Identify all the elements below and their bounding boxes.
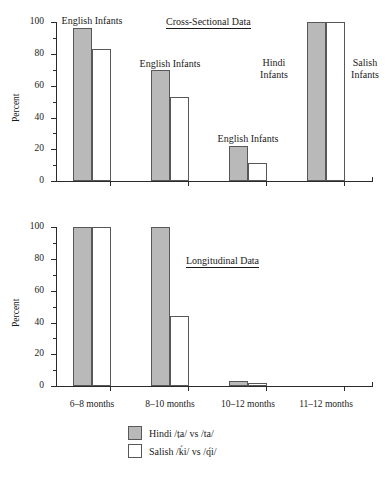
y-tick-80-long (51, 259, 56, 260)
annotation-hindi-infants-line2: Infants (247, 69, 301, 81)
legend-label-hindi: Hindi /ṭa/ vs /ta/ (149, 428, 214, 439)
annotation-english-infants-2: English Infants (205, 133, 291, 145)
y-label-100-long: 100 (14, 222, 44, 232)
annotation-salish-infants-line1: Salish (341, 57, 389, 69)
x-tick-cross-2 (188, 181, 189, 186)
panel-cross-sectional: 100 80 60 40 20 0 Percent Cross-Sectiona… (0, 0, 389, 200)
bar-salish-cross-2 (248, 163, 267, 181)
bar-salish-cross-1 (170, 97, 189, 181)
y-minor-tick-10-cross (53, 165, 56, 166)
legend-swatch-salish-icon (128, 444, 142, 458)
x-axis-line-long (56, 386, 373, 387)
y-minor-tick-30-long (53, 338, 56, 339)
y-tick-60-cross (51, 86, 56, 87)
y-tick-60-long (51, 291, 56, 292)
x-axis-line-cross (56, 181, 373, 182)
bar-salish-cross-0 (92, 49, 111, 181)
y-tick-40-long (51, 323, 56, 324)
bar-hindi-cross-1 (151, 70, 170, 181)
y-minor-tick-10-long (53, 370, 56, 371)
y-minor-tick-50-cross (53, 102, 56, 103)
bar-hindi-cross-3 (307, 22, 326, 181)
y-tick-0-cross (51, 181, 56, 182)
y-axis-title-cross: Percent (11, 94, 21, 123)
legend: Hindi /ṭa/ vs /ta/ Salish /ḱi/ vs /q́i/ (128, 424, 217, 460)
x-tick-long-3 (266, 386, 267, 391)
panel-title-cross-text: Cross-Sectional Data (166, 16, 251, 29)
panel-title-cross-sectional: Cross-Sectional Data (166, 16, 251, 27)
legend-swatch-hindi-icon (128, 426, 142, 440)
x-tick-long-1 (110, 386, 111, 391)
annotation-salish-infants-line2: Infants (341, 69, 389, 81)
x-category-label-3: 11–12 months (284, 399, 368, 409)
y-tick-0-long (51, 386, 56, 387)
bar-salish-long-2 (248, 383, 267, 386)
y-axis-title-long: Percent (11, 299, 21, 328)
legend-label-salish: Salish /ḱi/ vs /q́i/ (149, 446, 217, 457)
bar-hindi-cross-2 (229, 146, 248, 181)
y-axis-line-long (56, 227, 57, 386)
y-label-60-long: 60 (14, 286, 44, 296)
bar-salish-long-1 (170, 316, 189, 386)
bar-hindi-long-0 (73, 227, 92, 386)
y-label-80-cross: 80 (14, 49, 44, 59)
y-label-60-cross: 60 (14, 81, 44, 91)
annotation-english-infants-0: English Infants (49, 15, 135, 27)
panel-longitudinal: 100 80 60 40 20 0 Percent Longitudinal D… (0, 205, 389, 400)
x-tick-cross-1 (110, 181, 111, 186)
y-minor-tick-90-long (53, 243, 56, 244)
x-tick-cross-3 (266, 181, 267, 186)
bar-hindi-long-1 (151, 227, 170, 386)
legend-item-hindi: Hindi /ṭa/ vs /ta/ (128, 424, 217, 442)
bar-salish-long-0 (92, 227, 111, 386)
y-tick-20-cross (51, 149, 56, 150)
y-tick-100-long (51, 227, 56, 228)
x-tick-long-4 (344, 386, 345, 391)
y-axis-line-cross (56, 22, 57, 181)
legend-item-salish: Salish /ḱi/ vs /q́i/ (128, 442, 217, 460)
x-tick-cross-4 (344, 181, 345, 186)
bar-hindi-cross-0 (73, 28, 92, 181)
y-label-100-cross: 100 (14, 17, 44, 27)
x-tick-long-2 (188, 386, 189, 391)
bar-salish-cross-3 (326, 22, 345, 181)
y-label-0-long: 0 (14, 381, 44, 391)
annotation-hindi-infants-line1: Hindi (247, 57, 301, 69)
x-category-label-0: 6–8 months (50, 399, 134, 409)
y-tick-40-cross (51, 118, 56, 119)
x-category-label-2: 10–12 months (206, 399, 290, 409)
y-label-80-long: 80 (14, 254, 44, 264)
y-minor-tick-70-long (53, 275, 56, 276)
y-label-20-long: 20 (14, 349, 44, 359)
y-label-0-cross: 0 (14, 176, 44, 186)
x-axis-end-tick-cross (372, 177, 373, 182)
panel-title-longitudinal: Longitudinal Data (186, 255, 259, 266)
y-tick-80-cross (51, 54, 56, 55)
y-tick-20-long (51, 354, 56, 355)
figure-root: 100 80 60 40 20 0 Percent Cross-Sectiona… (0, 0, 389, 481)
panel-title-long-text: Longitudinal Data (186, 255, 259, 268)
y-label-20-cross: 20 (14, 144, 44, 154)
y-minor-tick-70-cross (53, 70, 56, 71)
y-minor-tick-90-cross (53, 38, 56, 39)
bar-hindi-long-2 (229, 381, 248, 386)
y-minor-tick-30-cross (53, 133, 56, 134)
annotation-english-infants-1: English Infants (127, 58, 213, 70)
x-category-label-1: 8–10 months (128, 399, 212, 409)
x-axis-end-tick-long (372, 382, 373, 387)
y-minor-tick-50-long (53, 307, 56, 308)
